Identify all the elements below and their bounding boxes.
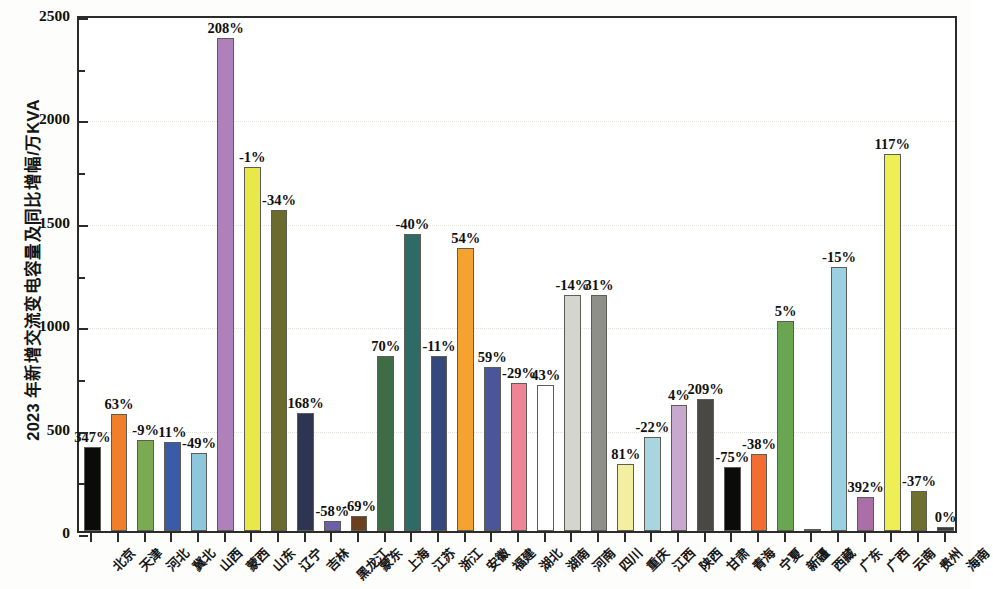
x-axis-tick-label: 陕西 xyxy=(695,543,727,575)
bar-group[interactable]: 5% xyxy=(777,18,794,531)
bar[interactable] xyxy=(537,385,554,531)
x-axis-tick xyxy=(117,533,119,542)
bar[interactable] xyxy=(297,413,314,531)
x-axis-tick xyxy=(864,533,866,542)
bar[interactable] xyxy=(564,295,581,531)
bar-group[interactable]: 0% xyxy=(937,18,954,531)
bar-group[interactable]: -37% xyxy=(911,18,928,531)
bar[interactable] xyxy=(404,234,421,531)
x-axis-tick xyxy=(517,533,519,542)
bar[interactable] xyxy=(617,464,634,531)
y-axis-minor-tick xyxy=(79,173,85,175)
bar-value-label: 0% xyxy=(935,509,957,526)
bar-group[interactable]: -75% xyxy=(724,18,741,531)
x-axis-tick-label: 北京 xyxy=(108,543,140,575)
bar[interactable] xyxy=(217,38,234,531)
bar[interactable] xyxy=(111,414,128,531)
x-axis-tick-label: 辽宁 xyxy=(295,543,327,575)
bar-group[interactable]: 392% xyxy=(857,18,874,531)
bar-value-label: 81% xyxy=(611,446,640,463)
bar-group[interactable]: 63% xyxy=(111,18,128,531)
bar-group[interactable]: -40% xyxy=(404,18,421,531)
x-axis-tick-label: 湖北 xyxy=(535,543,567,575)
bar-group[interactable]: 209% xyxy=(697,18,714,531)
bar[interactable] xyxy=(511,383,528,531)
bar[interactable] xyxy=(804,529,821,531)
bar-group[interactable]: 11% xyxy=(164,18,181,531)
bar[interactable] xyxy=(351,516,368,532)
bar[interactable] xyxy=(911,491,928,531)
bar[interactable] xyxy=(484,367,501,531)
bar[interactable] xyxy=(644,437,661,531)
bar-group[interactable]: 43% xyxy=(537,18,554,531)
bar[interactable] xyxy=(937,527,954,531)
bar-group[interactable]: -69% xyxy=(351,18,368,531)
bar-group[interactable]: -14% xyxy=(564,18,581,531)
bar[interactable] xyxy=(164,442,181,531)
bar-group[interactable]: 208% xyxy=(217,18,234,531)
x-axis-tick-label: 山西 xyxy=(215,543,247,575)
bar-group[interactable]: 70% xyxy=(377,18,394,531)
bar[interactable] xyxy=(84,447,101,531)
x-axis-tick-label: 海南 xyxy=(961,543,993,575)
bar-group[interactable]: -1% xyxy=(244,18,261,531)
x-axis-tick xyxy=(304,533,306,542)
bar-group[interactable]: -11% xyxy=(431,18,448,531)
bar[interactable] xyxy=(884,154,901,531)
bar[interactable] xyxy=(724,467,741,531)
bar-group[interactable]: -15% xyxy=(831,18,848,531)
bar[interactable] xyxy=(777,321,794,531)
bar[interactable] xyxy=(831,267,848,531)
bar-group[interactable]: -22% xyxy=(644,18,661,531)
bar[interactable] xyxy=(271,210,288,531)
bar-value-label: 43% xyxy=(531,367,560,384)
bar-group[interactable]: -29% xyxy=(511,18,528,531)
bar-group[interactable]: -58% xyxy=(324,18,341,531)
bar[interactable] xyxy=(857,497,874,531)
bar[interactable] xyxy=(137,440,154,531)
bar-group[interactable]: 4% xyxy=(671,18,688,531)
y-axis-tick-label: 2000 xyxy=(8,110,70,128)
bar[interactable] xyxy=(671,405,688,531)
bar[interactable] xyxy=(591,295,608,531)
bar-group[interactable]: 168% xyxy=(297,18,314,531)
bar[interactable] xyxy=(697,399,714,531)
bar[interactable] xyxy=(377,356,394,531)
bar[interactable] xyxy=(457,248,474,531)
x-axis-tick xyxy=(384,533,386,542)
x-axis-tick xyxy=(917,533,919,542)
bar-group[interactable]: 117% xyxy=(884,18,901,531)
y-axis-tick-labels: 05001000150020002500 xyxy=(0,16,70,533)
x-axis-tick-label: 福建 xyxy=(508,543,540,575)
x-axis-tick-label: 四川 xyxy=(615,543,647,575)
x-axis-tick-label: 江苏 xyxy=(428,543,460,575)
bar-group[interactable]: 347% xyxy=(84,18,101,531)
bar[interactable] xyxy=(431,356,448,531)
bar[interactable] xyxy=(324,521,341,531)
bar[interactable] xyxy=(244,167,261,531)
y-axis-minor-tick xyxy=(79,380,85,382)
bar-group[interactable]: -38% xyxy=(751,18,768,531)
bar-group[interactable]: 54% xyxy=(457,18,474,531)
x-axis-tick-label: 山东 xyxy=(268,543,300,575)
bar-group[interactable]: -9% xyxy=(137,18,154,531)
bar-group[interactable] xyxy=(804,18,821,531)
bar-group[interactable]: -34% xyxy=(271,18,288,531)
x-axis-tick xyxy=(890,533,892,542)
bar-group[interactable]: -49% xyxy=(191,18,208,531)
y-axis-major-tick xyxy=(79,328,88,330)
x-axis-tick xyxy=(277,533,279,542)
bar-group[interactable]: 81% xyxy=(617,18,634,531)
plot-area: 347%63%-9%11%-49%208%-1%-34%168%-58%-69%… xyxy=(77,16,957,533)
x-axis-tick xyxy=(544,533,546,542)
bar-value-label: 208% xyxy=(208,20,244,37)
y-axis-major-tick xyxy=(79,225,88,227)
x-axis-tick xyxy=(197,533,199,542)
bar[interactable] xyxy=(751,454,768,531)
x-axis-tick xyxy=(330,533,332,542)
y-axis-minor-tick xyxy=(79,483,85,485)
bar-group[interactable]: 31% xyxy=(591,18,608,531)
x-axis-ticks xyxy=(77,533,957,543)
bar-group[interactable]: 59% xyxy=(484,18,501,531)
bar[interactable] xyxy=(191,453,208,531)
